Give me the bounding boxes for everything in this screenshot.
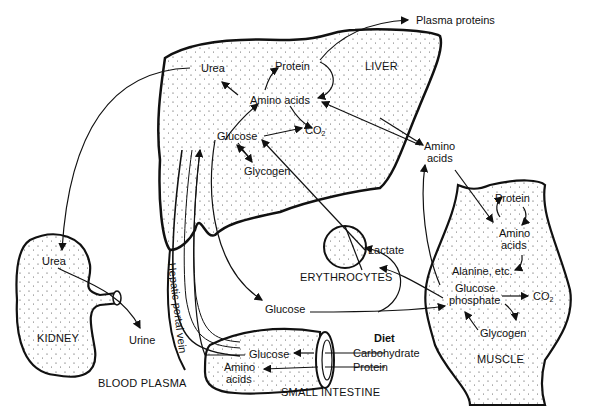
kidney-label: KIDNEY	[37, 332, 79, 344]
muscle-co2-label: CO2	[533, 290, 553, 306]
plasma-amino-label-2: acids	[427, 152, 453, 164]
liver-protein-label: Protein	[275, 60, 310, 72]
liver-co2-label: CO2	[305, 124, 325, 140]
liver-label: LIVER	[365, 60, 398, 72]
kidney-shape	[16, 234, 120, 376]
kidney-urea-label: Urea	[42, 255, 66, 267]
muscle-amino-label-2: acids	[501, 239, 527, 251]
muscle-label: MUSCLE	[477, 353, 524, 365]
erythrocytes-label: ERYTHROCYTES	[300, 271, 393, 283]
urine-label: Urine	[129, 334, 155, 346]
muscle-glycogen-label: Glycogen	[480, 327, 526, 339]
muscle-protein-label: Protein	[495, 192, 530, 204]
liver-glucose-label: Glucose	[217, 130, 257, 142]
alanine-label: Alanine, etc.	[452, 265, 513, 277]
liver-glycogen-label: Glycogen	[244, 165, 290, 177]
intestine-amino-label-1: Amino	[224, 361, 255, 373]
plasma-amino-label-1: Amino	[424, 140, 455, 152]
intestine-amino-label-2: acids	[226, 373, 252, 385]
muscle-amino-label-1: Amino	[499, 227, 530, 239]
small-intestine-shape	[205, 329, 322, 394]
plasma-glucose-label: Glucose	[265, 303, 305, 315]
lactate-label: Lactate	[368, 244, 404, 256]
blood-plasma-label: BLOOD PLASMA	[98, 377, 187, 389]
liver-amino-acids-label: Amino acids	[250, 94, 310, 106]
diet-carbohydrate-label: Carbohydrate	[353, 347, 420, 359]
diet-title: Diet	[374, 332, 395, 344]
erythrocyte-shape	[324, 226, 366, 268]
glucose-phosphate-label-1: Glucose	[455, 282, 495, 294]
diet-protein-label: Protein	[353, 361, 388, 373]
glucose-phosphate-label-2: phosphate	[449, 294, 500, 306]
intestine-glucose-label: Glucose	[249, 348, 289, 360]
small-intestine-label: SMALL INTESTINE	[281, 386, 380, 398]
liver-urea-label: Urea	[201, 62, 225, 74]
plasma-proteins-label: Plasma proteins	[416, 14, 495, 26]
metabolism-diagram: Urea Protein LIVER Amino acids Glucose C…	[0, 0, 589, 411]
